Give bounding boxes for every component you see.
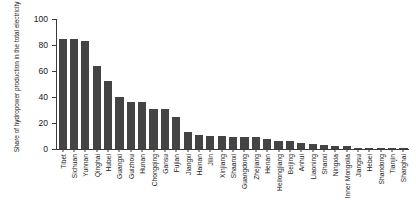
x-tick: Ningxia xyxy=(330,149,341,213)
bar-slot xyxy=(296,19,307,149)
bar xyxy=(252,137,260,149)
x-tick-mark xyxy=(335,149,336,152)
x-tick-label: Beijing xyxy=(286,154,293,174)
x-tick-mark xyxy=(176,149,177,152)
bar-slot xyxy=(68,19,79,149)
x-tick-mark xyxy=(108,149,109,152)
bar-slot xyxy=(352,19,363,149)
x-tick-mark xyxy=(255,149,256,152)
bar xyxy=(172,117,180,150)
y-tick-label: 40 xyxy=(8,92,48,102)
bar xyxy=(138,102,146,149)
x-tick: Inner Mongolia xyxy=(341,149,352,213)
x-tick: Jilin xyxy=(205,149,216,213)
x-tick-mark xyxy=(403,149,404,152)
y-tick-mark xyxy=(52,19,56,20)
x-tick-label: Chongqing xyxy=(150,154,157,186)
x-tick-label: Shanxi xyxy=(320,154,327,174)
bar-slot xyxy=(193,19,204,149)
x-tick-label: Ningxia xyxy=(332,154,339,176)
bar xyxy=(127,102,135,149)
x-tick: Fujian xyxy=(171,149,182,213)
x-tick-mark xyxy=(346,149,347,152)
x-tick-label: Guizhou xyxy=(127,154,134,179)
bar xyxy=(70,39,78,150)
x-tick: Yunnan xyxy=(80,149,91,213)
bar-slot xyxy=(307,19,318,149)
bar xyxy=(184,132,192,149)
bar xyxy=(218,136,226,149)
x-tick-label: Liaoning xyxy=(309,154,316,179)
bar-slot xyxy=(364,19,375,149)
x-tick: Guizhou xyxy=(125,149,136,213)
x-tick-label: Yunnan xyxy=(82,154,89,177)
x-tick: Beijing xyxy=(284,149,295,213)
y-tick-label: 80 xyxy=(8,40,48,50)
x-tick-mark xyxy=(210,149,211,152)
x-tick-mark xyxy=(187,149,188,152)
bar xyxy=(104,81,112,149)
x-tick-label: Inner Mongolia xyxy=(343,154,350,198)
x-tick-mark xyxy=(380,149,381,152)
bar xyxy=(240,137,248,149)
x-tick: Jiangsu xyxy=(352,149,363,213)
bar-slot xyxy=(114,19,125,149)
x-tick-mark xyxy=(323,149,324,152)
x-tick: Shanghai xyxy=(398,149,409,213)
bar-slot xyxy=(205,19,216,149)
y-tick-mark xyxy=(52,97,56,98)
x-tick-label: Shaanxi xyxy=(230,154,237,178)
x-tick-mark xyxy=(233,149,234,152)
bar-slot xyxy=(216,19,227,149)
x-tick: Henan xyxy=(261,149,272,213)
bar xyxy=(93,66,101,149)
x-tick: Chongqing xyxy=(148,149,159,213)
x-tick: Gansu xyxy=(159,149,170,213)
y-tick-label: 100 xyxy=(8,14,48,24)
bar-slot xyxy=(148,19,159,149)
x-tick: Tibet xyxy=(57,149,68,213)
bar-slot xyxy=(375,19,386,149)
x-tick-mark xyxy=(153,149,154,152)
y-tick-label: 20 xyxy=(8,118,48,128)
x-tick: Xinjiang xyxy=(216,149,227,213)
x-tick-label: Sichuan xyxy=(71,154,78,178)
x-tick-label: Hunan xyxy=(139,154,146,174)
x-tick: Hubei xyxy=(102,149,113,213)
x-tick-label: Jiangxi xyxy=(184,154,191,175)
bar xyxy=(195,135,203,149)
bar-slot xyxy=(398,19,409,149)
x-tick: Shaanxi xyxy=(227,149,238,213)
chart-figure: Share of hydropower production in the to… xyxy=(0,0,416,213)
x-tick: Anhui xyxy=(296,149,307,213)
x-tick-label: Jilin xyxy=(207,154,214,166)
bar-slot xyxy=(318,19,329,149)
bar xyxy=(115,97,123,149)
x-tick-mark xyxy=(74,149,75,152)
bar xyxy=(81,41,89,149)
x-tick-label: Hubei xyxy=(105,154,112,171)
x-tick: Heilongjiang xyxy=(273,149,284,213)
bar-slot xyxy=(171,19,182,149)
x-tick-label: Hainan xyxy=(195,154,202,175)
y-tick-mark xyxy=(52,123,56,124)
x-tick-mark xyxy=(198,149,199,152)
x-tick-label: Tianjin xyxy=(389,154,396,174)
bar-slot xyxy=(261,19,272,149)
bar-slot xyxy=(91,19,102,149)
y-tick-mark xyxy=(52,71,56,72)
x-tick: Guangxi xyxy=(114,149,125,213)
bar xyxy=(59,39,67,150)
x-tick-mark xyxy=(164,149,165,152)
x-tick-mark xyxy=(244,149,245,152)
x-tick: Hebei xyxy=(364,149,375,213)
bar-slot xyxy=(341,19,352,149)
bar xyxy=(274,141,282,149)
x-tick: Shandong xyxy=(375,149,386,213)
bar-slot xyxy=(159,19,170,149)
bar-slot xyxy=(182,19,193,149)
x-tick: Shanxi xyxy=(318,149,329,213)
x-tick-mark xyxy=(267,149,268,152)
x-tick: Sichuan xyxy=(68,149,79,213)
x-tick: Tianjin xyxy=(386,149,397,213)
